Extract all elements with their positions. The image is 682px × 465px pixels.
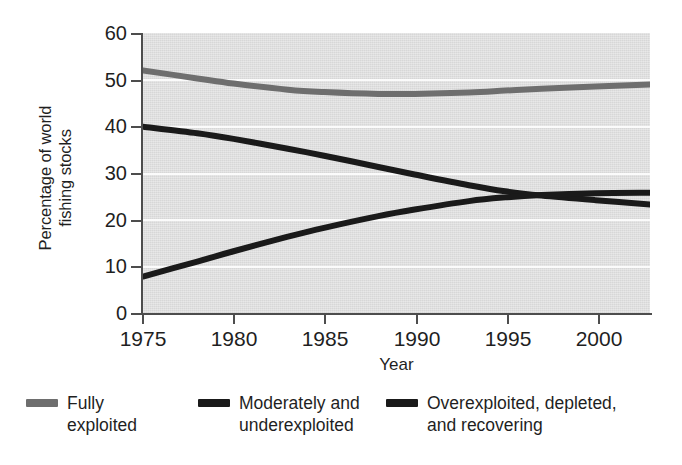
legend-label-moderately-underexploited: Moderately and underexploited xyxy=(239,392,360,436)
fishing-stocks-line-chart: Percentage of world fishing stocks 60 50… xyxy=(0,0,682,465)
legend-swatch-icon xyxy=(386,399,418,407)
legend-swatch-icon xyxy=(26,399,58,407)
x-tick-label-1985: 1985 xyxy=(285,326,365,352)
x-tick-label-1990: 1990 xyxy=(377,326,457,352)
x-tick-1975 xyxy=(142,314,144,324)
y-axis-title: Percentage of world fishing stocks xyxy=(35,28,75,328)
x-axis-line xyxy=(141,313,652,315)
chart-legend: Fully exploited Moderately and underexpl… xyxy=(26,392,676,452)
legend-label-fully-exploited: Fully exploited xyxy=(67,392,137,436)
x-tick-1985 xyxy=(324,314,326,324)
y-tick-label-50: 50 xyxy=(87,70,127,90)
legend-label-overexploited-depleted-recovering: Overexploited, depleted, and recovering xyxy=(427,392,617,436)
plot-area xyxy=(143,33,650,314)
line-overexploited-depleted-recovering xyxy=(143,193,650,277)
y-tick-50 xyxy=(131,80,142,82)
x-tick-1990 xyxy=(416,314,418,324)
y-tick-label-10: 10 xyxy=(87,256,127,276)
x-tick-1995 xyxy=(507,314,509,324)
y-tick-label-60: 60 xyxy=(87,23,127,43)
x-tick-1980 xyxy=(233,314,235,324)
y-tick-10 xyxy=(131,266,142,268)
y-tick-label-0: 0 xyxy=(87,303,127,323)
y-tick-0 xyxy=(131,313,142,315)
y-tick-40 xyxy=(131,126,142,128)
x-tick-label-2000: 2000 xyxy=(559,326,639,352)
y-tick-20 xyxy=(131,220,142,222)
x-axis-title: Year xyxy=(143,355,650,375)
x-tick-2000 xyxy=(598,314,600,324)
y-tick-label-30: 30 xyxy=(87,163,127,183)
y-tick-30 xyxy=(131,173,142,175)
y-tick-label-20: 20 xyxy=(87,210,127,230)
y-tick-label-40: 40 xyxy=(87,116,127,136)
legend-item-overexploited-depleted-recovering[interactable]: Overexploited, depleted, and recovering xyxy=(386,392,617,436)
x-tick-label-1995: 1995 xyxy=(468,326,548,352)
y-tick-60 xyxy=(131,33,142,35)
series-lines xyxy=(143,33,650,314)
line-fully-exploited xyxy=(143,70,650,94)
legend-item-fully-exploited[interactable]: Fully exploited xyxy=(26,392,137,436)
x-tick-label-1975: 1975 xyxy=(103,326,183,352)
legend-swatch-icon xyxy=(198,399,230,407)
x-tick-label-1980: 1980 xyxy=(194,326,274,352)
legend-item-moderately-underexploited[interactable]: Moderately and underexploited xyxy=(198,392,360,436)
